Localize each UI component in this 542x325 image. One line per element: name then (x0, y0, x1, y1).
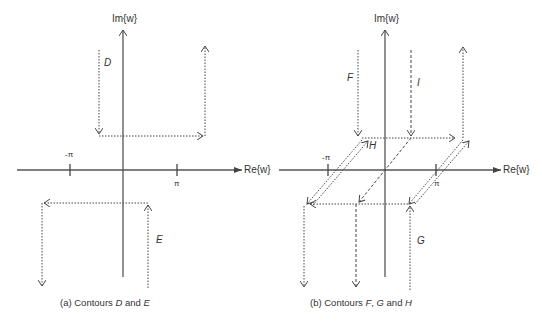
contour-label-i: I (417, 77, 420, 88)
tick-label-pi-b: π (434, 179, 440, 188)
contour-g (304, 204, 410, 290)
re-axis-label-a: Re{w} (244, 164, 271, 175)
contour-diagram (0, 0, 542, 325)
contour-h (307, 140, 469, 205)
im-axis-label-a: Im{w} (112, 13, 137, 24)
panel-a (17, 30, 242, 288)
contour-label-g: G (417, 235, 425, 246)
tick-label-pi-a: π (174, 179, 180, 188)
panel-b (279, 30, 501, 290)
tick-label-neg-pi-a: -π (65, 150, 73, 159)
contour-i (356, 50, 411, 287)
contour-label-e: E (156, 234, 163, 245)
tick-label-neg-pi-b: -π (322, 153, 330, 162)
contour-label-f: F (347, 72, 353, 83)
contour-label-d: D (104, 57, 111, 68)
caption-b: (b) Contours F, G and H (310, 297, 412, 308)
caption-a: (a) Contours D and E (60, 297, 150, 308)
im-axis-label-b: Im{w} (374, 13, 399, 24)
contour-d (99, 46, 205, 136)
re-axis-label-b: Re{w} (503, 164, 530, 175)
contour-e (42, 203, 148, 288)
contour-label-h: H (369, 140, 376, 151)
